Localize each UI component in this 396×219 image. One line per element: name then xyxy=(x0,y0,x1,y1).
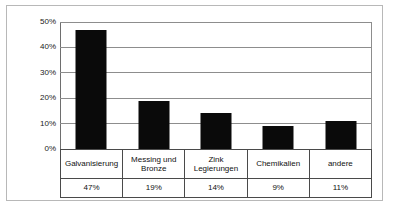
y-axis-label-group: 0%10%20%30%40%50% xyxy=(15,22,56,149)
bar xyxy=(263,126,294,149)
y-axis-tick-label: 10% xyxy=(40,120,56,128)
bar-slot xyxy=(122,22,184,149)
table-row-categories: GalvanisierungMessing undBronzeZinkLegie… xyxy=(61,150,372,179)
bar-slot xyxy=(60,22,122,149)
table-cell-value: 11% xyxy=(309,179,371,198)
chart-frame: 0%10%20%30%40%50% GalvanisierungMessing … xyxy=(6,5,383,201)
table-cell-category: andere xyxy=(309,150,371,179)
bar xyxy=(76,30,107,149)
table-cell-category: Galvanisierung xyxy=(61,150,123,179)
y-axis-tick-label: 40% xyxy=(40,43,56,51)
data-table: GalvanisierungMessing undBronzeZinkLegie… xyxy=(60,149,372,198)
table-cell-category: ZinkLegierungen xyxy=(185,150,247,179)
bar xyxy=(325,121,356,149)
table-cell-category: Chemikalien xyxy=(247,150,309,179)
bar-slot xyxy=(310,22,372,149)
y-axis-tick-label: 20% xyxy=(40,94,56,102)
table-cell-value: 9% xyxy=(247,179,309,198)
bar-slot xyxy=(247,22,309,149)
bar-slot xyxy=(185,22,247,149)
table-row-values: 47%19%14%9%11% xyxy=(61,179,372,198)
table-cell-value: 19% xyxy=(123,179,185,198)
table-cell-value: 14% xyxy=(185,179,247,198)
y-axis-tick-label: 50% xyxy=(40,18,56,26)
plot-area xyxy=(60,22,372,149)
y-axis-tick-label: 30% xyxy=(40,69,56,77)
table-cell-category: Messing undBronze xyxy=(123,150,185,179)
bar xyxy=(138,101,169,149)
y-axis-tick-label: 0% xyxy=(44,145,56,153)
bar xyxy=(200,113,231,149)
table-cell-value: 47% xyxy=(61,179,123,198)
